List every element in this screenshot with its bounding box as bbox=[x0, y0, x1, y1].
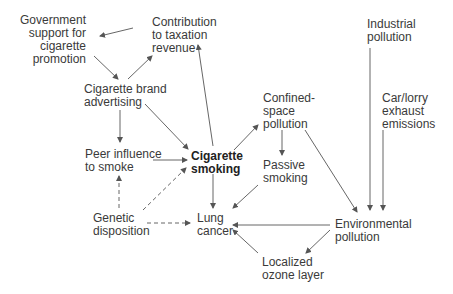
edge-genetic-smoking bbox=[143, 168, 186, 210]
edge-ozone-lung bbox=[233, 230, 258, 253]
node-localized-ozone-layer: Localized ozone layer bbox=[262, 256, 324, 282]
node-brand-advertising: Cigarette brand advertising bbox=[84, 83, 167, 109]
edge-confined-environmental bbox=[305, 130, 357, 212]
edge-environmental-ozone bbox=[306, 230, 330, 253]
edge-taxation-government bbox=[100, 28, 133, 36]
causal-diagram: Government support for cigarette promoti… bbox=[0, 0, 453, 294]
node-passive-smoking: Passive smoking bbox=[263, 159, 308, 185]
node-peer-influence: Peer influence to smoke bbox=[85, 148, 162, 174]
edge-advertising-smoking bbox=[145, 104, 188, 149]
edge-smoking-taxation bbox=[198, 45, 213, 146]
node-lung-cancer: Lung cancer bbox=[197, 212, 233, 238]
node-environmental-pollution: Environmental pollution bbox=[335, 218, 412, 244]
node-government-support: Government support for cigarette promoti… bbox=[6, 14, 86, 66]
node-car-lorry-emissions: Car/lorry exhaust emissions bbox=[382, 92, 435, 131]
edge-passive-lung bbox=[233, 185, 258, 208]
node-industrial-pollution: Industrial pollution bbox=[367, 18, 416, 44]
node-genetic-disposition: Genetic disposition bbox=[93, 212, 150, 238]
edge-government-advertising bbox=[94, 56, 118, 79]
edge-smoking-confined bbox=[234, 125, 258, 150]
edge-advertising-taxation bbox=[128, 56, 152, 79]
node-confined-space-pollution: Confined- space pollution bbox=[263, 92, 315, 131]
node-cigarette-smoking: Cigarette smoking bbox=[191, 150, 243, 176]
node-taxation-revenue: Contribution to taxation revenue bbox=[152, 16, 217, 55]
